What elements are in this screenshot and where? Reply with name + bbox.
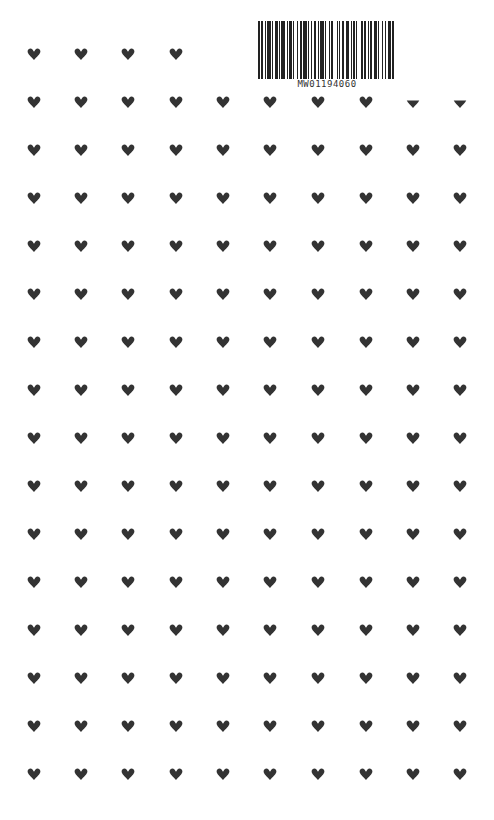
- heart-icon: [359, 191, 374, 205]
- heart-icon: [27, 335, 42, 349]
- heart-icon: [359, 287, 374, 301]
- heart-icon: [359, 95, 374, 109]
- heart-icon: [216, 95, 231, 109]
- heart-icon: [453, 527, 468, 541]
- heart-icon: [27, 671, 42, 685]
- heart-icon: [27, 479, 42, 493]
- heart-icon: [359, 143, 374, 157]
- heart-icon: [169, 479, 184, 493]
- heart-icon: [169, 47, 184, 61]
- heart-icon: [263, 95, 278, 109]
- heart-icon: [453, 671, 468, 685]
- heart-icon: [121, 719, 136, 733]
- barcode-bar: [392, 21, 394, 79]
- heart-icon: [263, 767, 278, 781]
- heart-icon: [453, 95, 468, 109]
- heart-icon: [263, 527, 278, 541]
- heart-icon: [359, 671, 374, 685]
- heart-icon: [27, 95, 42, 109]
- heart-icon: [359, 767, 374, 781]
- heart-icon: [27, 767, 42, 781]
- heart-icon: [406, 335, 421, 349]
- heart-icon: [359, 575, 374, 589]
- heart-icon: [121, 239, 136, 253]
- heart-icon: [359, 431, 374, 445]
- heart-icon: [216, 383, 231, 397]
- heart-icon: [311, 95, 326, 109]
- heart-icon: [263, 431, 278, 445]
- heart-icon: [27, 719, 42, 733]
- heart-icon: [359, 623, 374, 637]
- heart-icon: [453, 239, 468, 253]
- heart-icon: [121, 95, 136, 109]
- heart-icon: [27, 527, 42, 541]
- heart-icon: [121, 575, 136, 589]
- heart-icon: [311, 383, 326, 397]
- heart-icon: [263, 575, 278, 589]
- heart-icon: [263, 623, 278, 637]
- heart-icon: [169, 431, 184, 445]
- heart-icon: [121, 191, 136, 205]
- heart-icon: [121, 143, 136, 157]
- heart-icon: [216, 191, 231, 205]
- heart-icon: [453, 287, 468, 301]
- heart-icon: [74, 95, 89, 109]
- heart-icon: [121, 335, 136, 349]
- heart-icon: [169, 335, 184, 349]
- heart-icon: [74, 431, 89, 445]
- heart-icon: [311, 575, 326, 589]
- heart-icon: [74, 767, 89, 781]
- heart-icon: [453, 575, 468, 589]
- heart-icon: [216, 719, 231, 733]
- heart-icon: [74, 479, 89, 493]
- heart-icon: [121, 383, 136, 397]
- heart-icon: [453, 431, 468, 445]
- heart-icon: [406, 527, 421, 541]
- barcode-label: MW01194060: [256, 18, 398, 94]
- heart-icon: [311, 239, 326, 253]
- heart-icon: [406, 191, 421, 205]
- heart-icon: [74, 239, 89, 253]
- heart-icon: [311, 527, 326, 541]
- heart-icon: [216, 527, 231, 541]
- heart-icon: [311, 623, 326, 637]
- heart-icon: [453, 719, 468, 733]
- heart-icon: [169, 719, 184, 733]
- heart-icon: [216, 287, 231, 301]
- heart-icon: [453, 335, 468, 349]
- heart-icon: [453, 767, 468, 781]
- heart-icon: [263, 287, 278, 301]
- heart-icon: [406, 431, 421, 445]
- heart-icon: [359, 527, 374, 541]
- barcode-number: MW01194060: [256, 79, 398, 89]
- heart-icon: [406, 575, 421, 589]
- heart-icon: [311, 143, 326, 157]
- heart-icon: [216, 239, 231, 253]
- heart-icon: [216, 431, 231, 445]
- heart-icon: [311, 767, 326, 781]
- heart-icon: [406, 623, 421, 637]
- heart-icon: [406, 479, 421, 493]
- heart-icon: [216, 623, 231, 637]
- heart-icon: [27, 47, 42, 61]
- heart-icon: [453, 143, 468, 157]
- heart-icon: [406, 287, 421, 301]
- heart-icon: [169, 95, 184, 109]
- heart-icon: [311, 191, 326, 205]
- heart-icon: [311, 719, 326, 733]
- heart-icon: [216, 671, 231, 685]
- heart-icon: [74, 383, 89, 397]
- heart-icon: [359, 719, 374, 733]
- heart-icon: [169, 623, 184, 637]
- heart-icon: [121, 287, 136, 301]
- heart-icon: [263, 671, 278, 685]
- heart-icon: [169, 671, 184, 685]
- heart-icon: [74, 47, 89, 61]
- heart-icon: [27, 191, 42, 205]
- heart-icon: [121, 767, 136, 781]
- heart-icon: [406, 239, 421, 253]
- heart-icon: [169, 575, 184, 589]
- heart-icon: [27, 383, 42, 397]
- heart-icon: [263, 191, 278, 205]
- heart-icon: [406, 671, 421, 685]
